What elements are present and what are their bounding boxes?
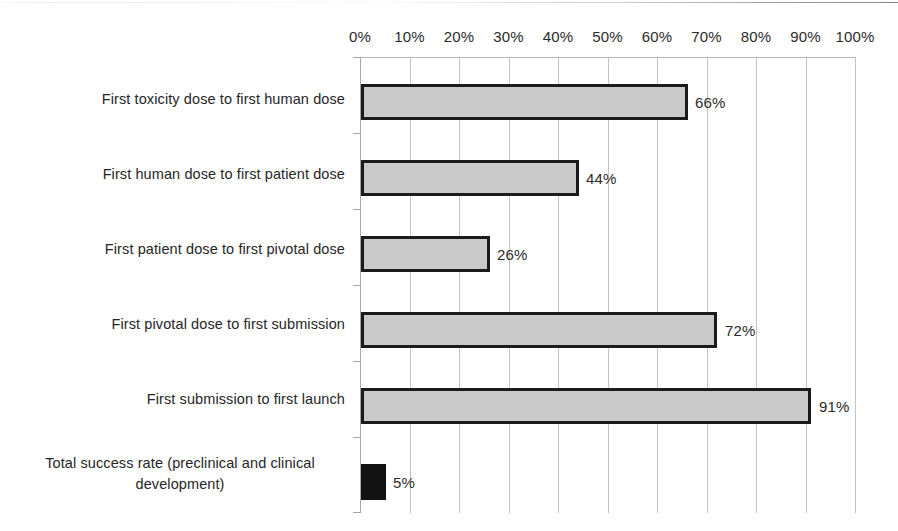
x-tick-label: 60% bbox=[642, 28, 672, 45]
x-tick-label: 0% bbox=[349, 28, 371, 45]
x-tick-label: 40% bbox=[543, 28, 573, 45]
category-label-line: development) bbox=[15, 474, 345, 495]
y-axis-tick bbox=[353, 361, 360, 362]
gridline bbox=[558, 57, 559, 513]
x-tick-label: 80% bbox=[741, 28, 771, 45]
bar-value-label: 66% bbox=[695, 94, 725, 111]
category-label: Total success rate (preclinical and clin… bbox=[15, 453, 345, 495]
horizontal-bar-chart: 0% 10% 20% 30% 40% 50% 60% 70% 80% 90% 1… bbox=[0, 0, 898, 531]
y-axis-tick bbox=[353, 285, 360, 286]
y-axis-tick bbox=[353, 57, 360, 58]
bar-value-label: 91% bbox=[819, 398, 849, 415]
y-axis-tick bbox=[353, 437, 360, 438]
category-label-line: Total success rate (preclinical and clin… bbox=[15, 453, 345, 474]
x-tick-label: 20% bbox=[444, 28, 474, 45]
x-tick-label: 90% bbox=[790, 28, 820, 45]
plot-area: 66% 44% 26% 72% 91% 5% bbox=[360, 57, 855, 513]
x-tick-label: 100% bbox=[836, 28, 875, 45]
x-tick-label: 50% bbox=[592, 28, 622, 45]
plot-left-axis-line bbox=[360, 57, 361, 513]
gridline bbox=[756, 57, 757, 513]
y-axis-tick bbox=[353, 133, 360, 134]
bar-value-label: 26% bbox=[497, 246, 527, 263]
gridline bbox=[459, 57, 460, 513]
category-label: First pivotal dose to first submission bbox=[15, 314, 345, 335]
category-label: First human dose to first patient dose bbox=[15, 164, 345, 185]
gridline bbox=[608, 57, 609, 513]
bar-value-label: 72% bbox=[725, 322, 755, 339]
bar[interactable] bbox=[361, 464, 386, 500]
y-axis-tick bbox=[353, 512, 360, 513]
x-tick-label: 70% bbox=[691, 28, 721, 45]
bar[interactable] bbox=[361, 84, 688, 120]
gridline bbox=[707, 57, 708, 513]
gridline bbox=[509, 57, 510, 513]
bar[interactable] bbox=[361, 388, 811, 424]
category-label: First patient dose to first pivotal dose bbox=[15, 239, 345, 260]
x-tick-label: 30% bbox=[493, 28, 523, 45]
x-axis-tick-labels: 0% 10% 20% 30% 40% 50% 60% 70% 80% 90% 1… bbox=[360, 28, 855, 50]
bar-value-label: 5% bbox=[393, 474, 415, 491]
bar-value-label: 44% bbox=[586, 170, 616, 187]
gridline bbox=[855, 57, 856, 513]
bar[interactable] bbox=[361, 160, 579, 196]
bar[interactable] bbox=[361, 236, 490, 272]
y-axis-tick bbox=[353, 209, 360, 210]
gridline bbox=[806, 57, 807, 513]
x-tick-label: 10% bbox=[394, 28, 424, 45]
gridline bbox=[657, 57, 658, 513]
category-label: First toxicity dose to first human dose bbox=[15, 89, 345, 110]
gridline bbox=[410, 57, 411, 513]
category-label: First submission to first launch bbox=[15, 389, 345, 410]
bar[interactable] bbox=[361, 312, 717, 348]
